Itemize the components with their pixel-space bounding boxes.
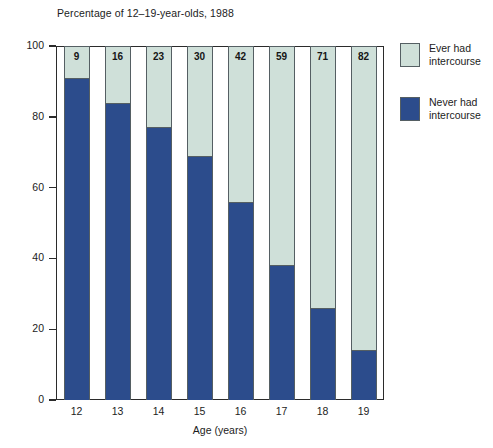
legend-swatch bbox=[400, 43, 420, 67]
y-axis-tick-mark bbox=[49, 45, 56, 46]
bar-segment-never-had[interactable] bbox=[64, 78, 90, 400]
x-axis-tick-label: 16 bbox=[220, 405, 261, 417]
chart-legend: Ever had intercourseNever had intercours… bbox=[400, 43, 493, 151]
bar-segment-never-had[interactable] bbox=[228, 202, 254, 400]
bar-value-label: 82 bbox=[351, 52, 377, 62]
bar-segment-never-had[interactable] bbox=[269, 265, 295, 400]
y-axis-tick-label: 0 bbox=[38, 393, 44, 405]
y-axis-tick-label: 80 bbox=[32, 110, 44, 122]
bar-group[interactable]: 42 bbox=[228, 46, 254, 400]
x-axis-title: Age (years) bbox=[56, 424, 384, 436]
legend-label: Never had intercourse bbox=[429, 96, 481, 121]
x-axis-tick-label: 17 bbox=[261, 405, 302, 417]
legend-swatch bbox=[400, 97, 420, 121]
bars-layer: 916233042597182 bbox=[56, 46, 384, 400]
bar-segment-ever-had[interactable] bbox=[310, 46, 336, 308]
bar-segment-never-had[interactable] bbox=[105, 103, 131, 400]
bar-segment-never-had[interactable] bbox=[351, 350, 377, 400]
chart-title: Percentage of 12–19-year-olds, 1988 bbox=[57, 7, 234, 19]
bar-value-label: 42 bbox=[228, 52, 254, 62]
bar-segment-never-had[interactable] bbox=[310, 308, 336, 400]
bar-value-label: 30 bbox=[187, 52, 213, 62]
bar-group[interactable]: 30 bbox=[187, 46, 213, 400]
bar-group[interactable]: 71 bbox=[310, 46, 336, 400]
x-axis-tick-label: 14 bbox=[138, 405, 179, 417]
chart-figure: Percentage of 12–19-year-olds, 1988 0204… bbox=[0, 0, 493, 448]
y-axis-tick-label: 20 bbox=[32, 322, 44, 334]
x-axis-tick-label: 18 bbox=[302, 405, 343, 417]
x-axis-tick-label: 13 bbox=[97, 405, 138, 417]
bar-value-label: 9 bbox=[64, 52, 90, 62]
bar-group[interactable]: 82 bbox=[351, 46, 377, 400]
y-axis-tick-mark bbox=[49, 116, 56, 117]
bar-segment-never-had[interactable] bbox=[187, 156, 213, 400]
y-axis-tick-label: 100 bbox=[26, 39, 44, 51]
bar-value-label: 59 bbox=[269, 52, 295, 62]
y-axis-tick-mark bbox=[49, 329, 56, 330]
x-axis-tick-label: 19 bbox=[343, 405, 384, 417]
bar-segment-ever-had[interactable] bbox=[269, 46, 295, 265]
y-axis-tick-label: 60 bbox=[32, 181, 44, 193]
y-axis-tick-label: 40 bbox=[32, 251, 44, 263]
bar-segment-ever-had[interactable] bbox=[187, 46, 213, 156]
bar-value-label: 71 bbox=[310, 52, 336, 62]
y-axis: 020406080100 bbox=[0, 46, 56, 400]
legend-item[interactable]: Never had intercourse bbox=[400, 97, 493, 131]
x-axis-tick-label: 15 bbox=[179, 405, 220, 417]
bar-segment-ever-had[interactable] bbox=[351, 46, 377, 350]
bar-segment-ever-had[interactable] bbox=[228, 46, 254, 202]
x-axis-tick-label: 12 bbox=[56, 405, 97, 417]
bar-segment-never-had[interactable] bbox=[146, 127, 172, 400]
bar-value-label: 16 bbox=[105, 52, 131, 62]
bar-group[interactable]: 59 bbox=[269, 46, 295, 400]
y-axis-tick-mark bbox=[49, 187, 56, 188]
legend-item[interactable]: Ever had intercourse bbox=[400, 43, 493, 77]
bar-group[interactable]: 16 bbox=[105, 46, 131, 400]
bar-group[interactable]: 23 bbox=[146, 46, 172, 400]
legend-label: Ever had intercourse bbox=[429, 42, 481, 67]
bar-group[interactable]: 9 bbox=[64, 46, 90, 400]
y-axis-tick-mark bbox=[49, 399, 56, 400]
y-axis-tick-mark bbox=[49, 258, 56, 259]
bar-value-label: 23 bbox=[146, 52, 172, 62]
